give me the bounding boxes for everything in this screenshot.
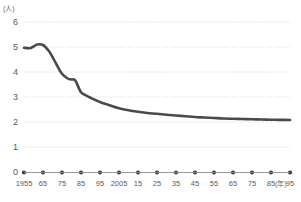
x-tick-label: 75 — [248, 179, 256, 188]
y-tick-label: 5 — [13, 42, 18, 52]
x-tick-label: 75 — [58, 179, 66, 188]
x-tick-label: 95 — [96, 179, 104, 188]
x-axis-tick-labels: 1955657585952005152535455565758595 — [16, 179, 295, 188]
x-tick-label: 95 — [286, 179, 294, 188]
x-tick-label: 1955 — [16, 179, 33, 188]
y-tick-label: 1 — [13, 142, 18, 152]
x-tick-label: 15 — [134, 179, 142, 188]
line-chart: 0123456 19556575859520051525354555657585… — [0, 0, 301, 202]
x-tick-label: 25 — [153, 179, 161, 188]
data-line-average-household-size — [24, 44, 290, 120]
x-tick-label: 85 — [77, 179, 85, 188]
x-tick-label: 45 — [191, 179, 199, 188]
x-tick-label: 65 — [229, 179, 237, 188]
y-tick-label: 4 — [13, 67, 18, 77]
x-tick-label: 35 — [172, 179, 180, 188]
y-axis-unit-label: (人) — [3, 5, 15, 13]
x-tick-label: 55 — [210, 179, 218, 188]
y-tick-label: 3 — [13, 92, 18, 102]
x-tick-label: 65 — [39, 179, 47, 188]
y-tick-label: 6 — [13, 17, 18, 27]
x-tick-label: 2005 — [111, 179, 128, 188]
x-axis-unit-label: (年) — [275, 179, 287, 188]
y-tick-label: 2 — [13, 117, 18, 127]
y-axis-tick-labels: 0123456 — [13, 17, 18, 177]
gridlines-group — [24, 22, 290, 147]
y-tick-label: 0 — [13, 167, 18, 177]
x-tick-label: 85 — [267, 179, 275, 188]
chart-canvas: 0123456 19556575859520051525354555657585… — [0, 0, 301, 202]
